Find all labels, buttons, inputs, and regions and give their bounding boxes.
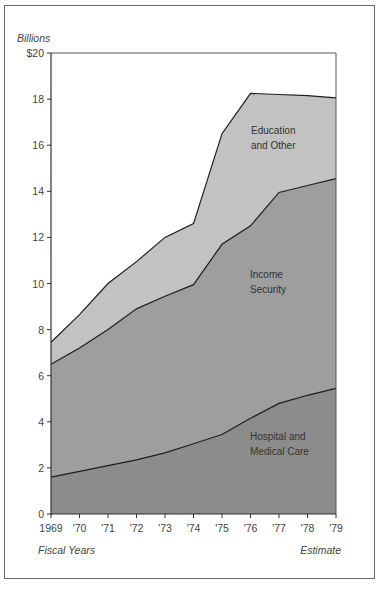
y-tick-label: 10	[32, 278, 44, 290]
y-tick-label: 16	[32, 139, 44, 151]
y-tick-label: 4	[38, 416, 44, 428]
x-tick-label: '79	[329, 522, 343, 534]
x-tick-label: '75	[215, 522, 229, 534]
x-tick-label: '73	[158, 522, 172, 534]
x-tick-label: '72	[130, 522, 144, 534]
x-tick-label: '71	[101, 522, 115, 534]
estimate-annotation: Estimate	[300, 544, 341, 556]
x-tick-label: 1969	[39, 522, 63, 534]
y-tick-label: 14	[32, 185, 44, 197]
x-tick-label: '70	[73, 522, 87, 534]
x-tick-label: '77	[272, 522, 286, 534]
stacked-area-chart: 024681012141618$201969'70'71'72'73'74'75…	[0, 0, 382, 591]
y-tick-label: 0	[38, 508, 44, 520]
y-tick-label: $20	[26, 47, 44, 59]
y-tick-label: 2	[38, 462, 44, 474]
y-tick-label: 18	[32, 93, 44, 105]
y-tick-label: 12	[32, 231, 44, 243]
y-tick-label: 6	[38, 370, 44, 382]
x-axis-label: Fiscal Years	[38, 544, 96, 556]
x-tick-label: '78	[301, 522, 315, 534]
x-tick-label: '74	[187, 522, 201, 534]
x-tick-label: '76	[244, 522, 258, 534]
y-tick-label: 8	[38, 324, 44, 336]
y-axis-label: Billions	[17, 32, 51, 44]
